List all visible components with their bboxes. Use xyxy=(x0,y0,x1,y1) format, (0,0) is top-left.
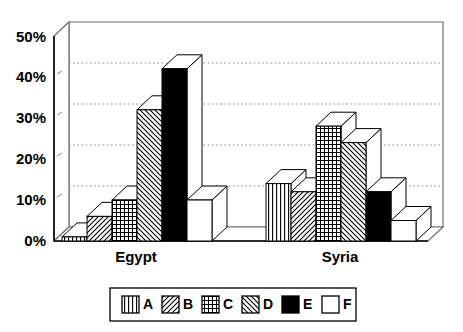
legend-label-B: B xyxy=(183,296,193,312)
y-tick-label-30: 30% xyxy=(16,109,46,126)
bar-front-face xyxy=(391,221,416,242)
bar-front-face xyxy=(187,200,212,241)
bar-egypt-F xyxy=(187,186,227,241)
y-tick-label-40: 40% xyxy=(16,68,46,85)
bar-front-face xyxy=(162,69,187,241)
y-tick-label-20: 20% xyxy=(16,150,46,167)
legend-label-F: F xyxy=(343,296,352,312)
bar-front-face xyxy=(62,237,87,241)
category-label-egypt: Egypt xyxy=(115,248,157,265)
category-label-syria: Syria xyxy=(322,248,359,265)
legend-label-A: A xyxy=(143,296,153,312)
legend-label-D: D xyxy=(263,296,273,312)
chart-svg: 50% 40% 30% 20% 10% 0% Egypt Syria ABCDE… xyxy=(0,0,463,332)
bar-chart-figure: 50% 40% 30% 20% 10% 0% Egypt Syria ABCDE… xyxy=(0,0,463,332)
legend-swatch-C xyxy=(202,296,219,313)
legend-swatch-E xyxy=(282,296,299,313)
bar-front-face xyxy=(112,200,137,241)
legend-label-E: E xyxy=(303,296,312,312)
bar-front-face xyxy=(266,184,291,241)
legend-swatch-F xyxy=(322,296,339,313)
bar-front-face xyxy=(291,192,316,241)
bar-front-face xyxy=(366,192,391,241)
legend-swatch-B xyxy=(162,296,179,313)
legend-swatch-A xyxy=(122,296,139,313)
legend-swatch-D xyxy=(242,296,259,313)
y-tick-label-0: 0% xyxy=(24,232,46,249)
bar-front-face xyxy=(341,143,366,241)
y-tick-label-10: 10% xyxy=(16,191,46,208)
bar-front-face xyxy=(87,216,112,241)
bar-front-face xyxy=(137,110,162,241)
legend-label-C: C xyxy=(223,296,233,312)
left-wall xyxy=(54,22,69,241)
legend: ABCDEF xyxy=(110,288,356,321)
bar-front-face xyxy=(316,126,341,241)
y-tick-label-50: 50% xyxy=(16,28,46,45)
